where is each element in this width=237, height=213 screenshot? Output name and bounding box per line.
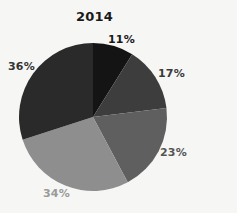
slice-label: 23% bbox=[160, 146, 187, 159]
slice-label: 17% bbox=[158, 67, 185, 80]
pie-plot-area bbox=[0, 0, 237, 213]
slice-label: 36% bbox=[8, 60, 35, 73]
slice-label: 34% bbox=[43, 187, 70, 200]
slice-label: 11% bbox=[108, 33, 135, 46]
pie-chart: 2014 11%17%23%34%36% bbox=[0, 0, 237, 213]
